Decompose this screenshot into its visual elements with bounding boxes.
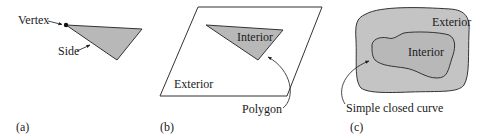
exterior-label: Exterior [432,15,471,29]
curve-label: Simple closed curve [346,101,443,115]
interior-label: Interior [237,30,273,44]
panel-b: Interior Exterior Polygon (b) [160,7,322,134]
vertex-dot [64,23,68,27]
vertex-arrow-icon [48,21,62,25]
vertex-label: Vertex [18,13,49,27]
panel-a: Vertex Side (a) [16,13,142,134]
caption-a: (a) [16,120,29,134]
exterior-label: Exterior [174,77,213,91]
side-label: Side [58,44,79,58]
polygon-diagram-figure: Vertex Side (a) Interior Exterior Polygo… [0,0,492,140]
polygon-label: Polygon [242,102,282,116]
interior-label: Interior [408,45,444,59]
polygon-arrow-icon [268,57,290,108]
caption-c: (c) [350,120,363,134]
panel-c: Exterior Interior Simple closed curve (c… [342,8,472,134]
caption-b: (b) [160,120,174,134]
